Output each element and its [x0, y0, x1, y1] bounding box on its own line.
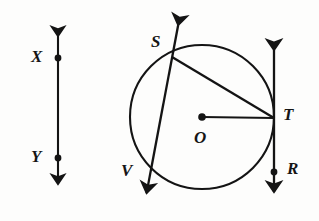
- point-x-dot: [55, 55, 62, 62]
- label-point-r: R: [287, 160, 298, 177]
- point-y-dot: [55, 155, 62, 162]
- label-point-y: Y: [31, 148, 41, 165]
- label-point-o: O: [194, 129, 206, 146]
- chord-st: [172, 57, 274, 118]
- label-point-v: V: [121, 162, 132, 179]
- label-point-x: X: [31, 48, 42, 65]
- label-point-t: T: [283, 106, 293, 123]
- radius-ot: [202, 117, 274, 118]
- point-r-dot: [271, 169, 278, 176]
- geometry-figure: X Y S V T R O: [0, 0, 319, 221]
- point-o-dot: [198, 113, 206, 121]
- label-point-s: S: [151, 33, 160, 50]
